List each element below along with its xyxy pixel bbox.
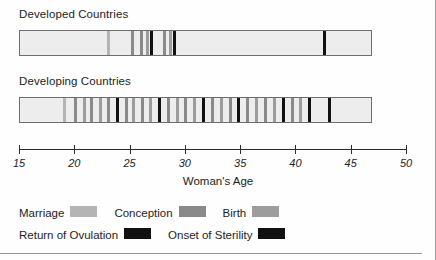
event-stripe-conception [229, 98, 232, 122]
event-stripe-conception [211, 98, 214, 122]
event-stripe-return-of-ovulation [308, 98, 311, 122]
legend-item-marriage: Marriage [19, 203, 97, 221]
event-stripe-conception [107, 98, 110, 122]
panel-title-developed: Developed Countries [19, 8, 128, 20]
event-stripe-birth [146, 31, 149, 55]
legend-row-1: MarriageConceptionBirth [19, 202, 419, 224]
event-stripe-conception [163, 31, 166, 55]
legend-swatch-onset-of-sterility [258, 228, 285, 239]
legend-item-conception: Conception [114, 203, 205, 221]
event-stripe-birth [220, 98, 223, 122]
event-stripe-return-of-ovulation [282, 98, 285, 122]
event-stripe-birth [83, 98, 86, 122]
event-stripe-birth [273, 98, 276, 122]
legend-item-birth: Birth [223, 203, 280, 221]
event-stripe-onset-of-sterility [328, 98, 331, 122]
legend-swatch-return-of-ovulation [124, 228, 151, 239]
event-stripe-marriage [107, 31, 110, 55]
axis-tick-label-25: 25 [123, 157, 135, 169]
legend-label: Marriage [19, 207, 64, 219]
event-stripe-birth [193, 98, 196, 122]
figure-bottom-rule [0, 253, 422, 254]
event-stripe-conception [74, 98, 77, 122]
legend-swatch-marriage [70, 206, 97, 217]
event-stripe-birth [149, 98, 152, 122]
event-stripe-conception [141, 98, 144, 122]
axis-tick-label-30: 30 [179, 157, 191, 169]
event-stripe-conception [264, 98, 267, 122]
chart-figure: Developed Countries Developing Countries… [0, 0, 436, 260]
axis-tick-label-50: 50 [400, 157, 412, 169]
event-stripe-marriage [63, 98, 66, 122]
axis-tick-50 [406, 145, 407, 154]
axis-tick-15 [19, 145, 20, 154]
event-stripe-birth [169, 31, 172, 55]
event-stripe-birth [299, 98, 302, 122]
axis-tick-label-15: 15 [13, 157, 25, 169]
event-stripe-birth [132, 98, 135, 122]
axis-tick-label-40: 40 [289, 157, 301, 169]
event-stripe-conception [125, 98, 128, 122]
bar-developed-countries [19, 30, 372, 56]
axis-tick-25 [130, 145, 131, 154]
axis-tick-45 [351, 145, 352, 154]
legend-label: Conception [114, 207, 172, 219]
bar-developing-countries [19, 97, 372, 123]
event-stripe-conception [131, 31, 134, 55]
axis-tick-label-45: 45 [345, 157, 357, 169]
legend-swatch-birth [252, 206, 279, 217]
event-stripe-conception [184, 98, 187, 122]
event-stripe-conception [90, 98, 93, 122]
event-stripe-return-of-ovulation [202, 98, 205, 122]
age-axis-line [19, 149, 407, 150]
event-stripe-conception [291, 98, 294, 122]
axis-tick-20 [74, 145, 75, 154]
legend-label: Return of Ovulation [19, 229, 118, 241]
event-stripe-return-of-ovulation [116, 98, 119, 122]
axis-tick-35 [240, 145, 241, 154]
event-stripe-onset-of-sterility [323, 31, 326, 55]
event-stripe-birth [255, 98, 258, 122]
axis-tick-30 [185, 145, 186, 154]
event-stripe-return-of-ovulation [150, 31, 153, 55]
axis-tick-label-35: 35 [234, 157, 246, 169]
event-stripe-birth [99, 98, 102, 122]
event-stripe-birth [176, 98, 179, 122]
axis-title: Woman's Age [0, 175, 436, 187]
legend-item-onset-of-sterility: Onset of Sterility [168, 225, 285, 243]
event-stripe-return-of-ovulation [173, 31, 176, 55]
legend-label: Onset of Sterility [168, 229, 252, 241]
event-stripe-return-of-ovulation [158, 98, 161, 122]
event-stripe-return-of-ovulation [237, 98, 240, 122]
panel-title-developing: Developing Countries [19, 75, 131, 87]
event-stripe-conception [140, 31, 143, 55]
legend-swatch-conception [179, 206, 206, 217]
event-stripe-conception [246, 98, 249, 122]
axis-tick-label-20: 20 [68, 157, 80, 169]
legend-row-2: Return of OvulationOnset of Sterility [19, 224, 419, 246]
legend-item-return-of-ovulation: Return of Ovulation [19, 225, 151, 243]
legend-label: Birth [223, 207, 247, 219]
legend: MarriageConceptionBirthReturn of Ovulati… [19, 202, 419, 246]
event-stripe-conception [167, 98, 170, 122]
axis-tick-40 [295, 145, 296, 154]
